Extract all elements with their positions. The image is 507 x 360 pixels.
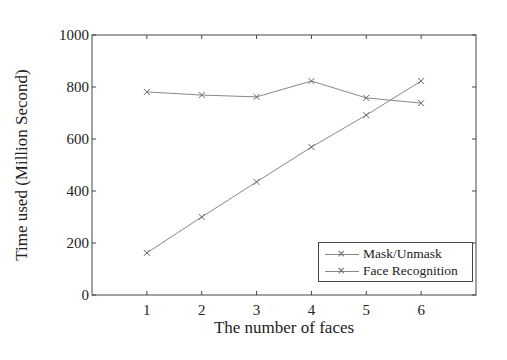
series-line [147, 81, 421, 253]
x-tick-label: 2 [198, 302, 206, 319]
x-marker-icon [199, 214, 205, 220]
x-axis-label: The number of faces [214, 318, 354, 338]
x-marker-icon [144, 250, 150, 256]
legend-item-mask-unmask: × Mask/Unmask [319, 246, 442, 262]
legend-label: Face Recognition [363, 263, 458, 279]
y-tick-label: 0 [82, 287, 90, 304]
y-axis-label: Time used (Million Second) [12, 69, 32, 261]
y-tick-label: 800 [67, 79, 90, 96]
x-marker-icon: × [325, 266, 359, 276]
x-marker-icon [418, 78, 424, 84]
legend-label: Mask/Unmask [363, 246, 442, 262]
y-tick-label: 1000 [59, 27, 89, 44]
x-tick-label: 3 [253, 302, 261, 319]
data-series [144, 78, 424, 256]
x-marker-icon [254, 179, 260, 185]
x-marker-icon [308, 78, 314, 84]
x-marker-icon [363, 112, 369, 118]
y-tick-label: 400 [67, 183, 90, 200]
x-tick-label: 4 [308, 302, 316, 319]
legend: × Mask/Unmask × Face Recognition [318, 242, 473, 282]
y-tick-label: 200 [67, 235, 90, 252]
x-tick-label: 1 [143, 302, 151, 319]
legend-item-face-recognition: × Face Recognition [319, 263, 458, 279]
y-tick-label: 600 [67, 131, 90, 148]
x-marker-icon [308, 144, 314, 150]
series-line [147, 81, 421, 103]
x-marker-icon: × [325, 249, 359, 259]
x-tick-label: 5 [363, 302, 371, 319]
x-tick-label: 6 [417, 302, 425, 319]
